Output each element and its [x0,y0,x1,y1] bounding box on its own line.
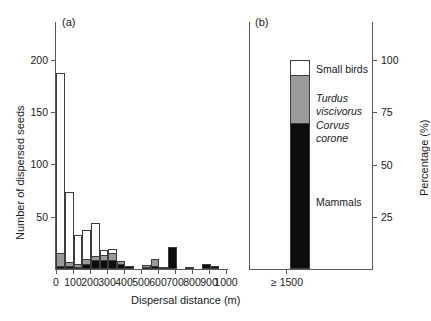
bar-segment [168,247,177,269]
panel-a-xtick [158,270,159,274]
panel-b-ytick [373,165,377,166]
panel-a-ytick [51,60,55,61]
panel-a-xtick [107,270,108,274]
bar-segment [91,223,100,257]
panel-a-xtick [226,270,227,274]
bar-segment [125,266,134,269]
panel-b-ytick [373,217,377,218]
panel-a-xtick [209,270,210,274]
bar-segment [65,192,74,263]
panel-a-xtick-label: 1000 [211,276,241,288]
panel-b-xtick-label: ≥ 1500 [258,276,316,288]
panel-a-ytick [51,112,55,113]
legend-label-turdus: Turdus [316,92,348,104]
panel-b-tag: (b) [255,16,268,28]
bar-segment [185,267,194,269]
panel-a-xtick [73,270,74,274]
panel-b-ytick [373,60,377,61]
panel-a-ytick [51,217,55,218]
panel-b-x-axis [249,269,373,270]
panel-a-xtick [124,270,125,274]
bar-segment [82,230,91,260]
bar-segment [108,260,117,269]
panel-a-xtick [90,270,91,274]
bar-segment-turdus-viscivorus [290,75,310,124]
panel-a-ytick [51,164,55,165]
panel-a-y-axis-title: Number of dispersed seeds [14,105,26,240]
legend-label-viscivorus: viscivorus [316,105,362,117]
bar-segment [56,253,65,267]
bar-segment [108,249,117,254]
figure-canvas: (a) 50 100 150 200 Number of dispersed s… [0,0,431,321]
bar-segment [151,259,159,267]
legend-label-corvus: Corvus [316,119,349,131]
panel-a-xtick [141,270,142,274]
bar-segment [108,253,117,261]
panel-a-x-axis-title: Dispersal distance (m) [131,294,240,306]
bar-segment [100,260,108,269]
panel-b-ytick [373,112,377,113]
bar-segment [159,267,168,269]
panel-a-xtick [175,270,176,274]
legend-label-mammals: Mammals [316,196,362,208]
bar-segment [91,260,100,269]
bar-segment-small-birds [290,60,310,76]
panel-b-ytick-label: 75 [381,106,393,118]
bar-segment [100,250,108,256]
panel-a-ytick-label: 200 [16,54,48,66]
legend-label-small-birds: Small birds [316,63,368,75]
panel-b-left-axis [249,22,250,270]
panel-a-xtick [56,270,57,274]
panel-a-xtick [192,270,193,274]
panel-b-ytick-label: 50 [381,159,393,171]
panel-b-y-axis-title: Percentage (%) [418,120,430,196]
panel-b-ytick-label: 100 [381,54,399,66]
panel-b-ytick-label: 25 [381,211,393,223]
bar-segment-mammals [290,123,310,269]
bar-segment [211,266,219,269]
legend-label-corone: corone [316,132,348,144]
bar-segment [74,235,82,265]
bar-segment [202,264,211,269]
panel-a-tag: (a) [62,16,75,28]
bar-segment [117,261,125,265]
panel-b-xtick [286,270,287,274]
bar-segment [56,73,65,254]
bar-segment [142,265,151,268]
